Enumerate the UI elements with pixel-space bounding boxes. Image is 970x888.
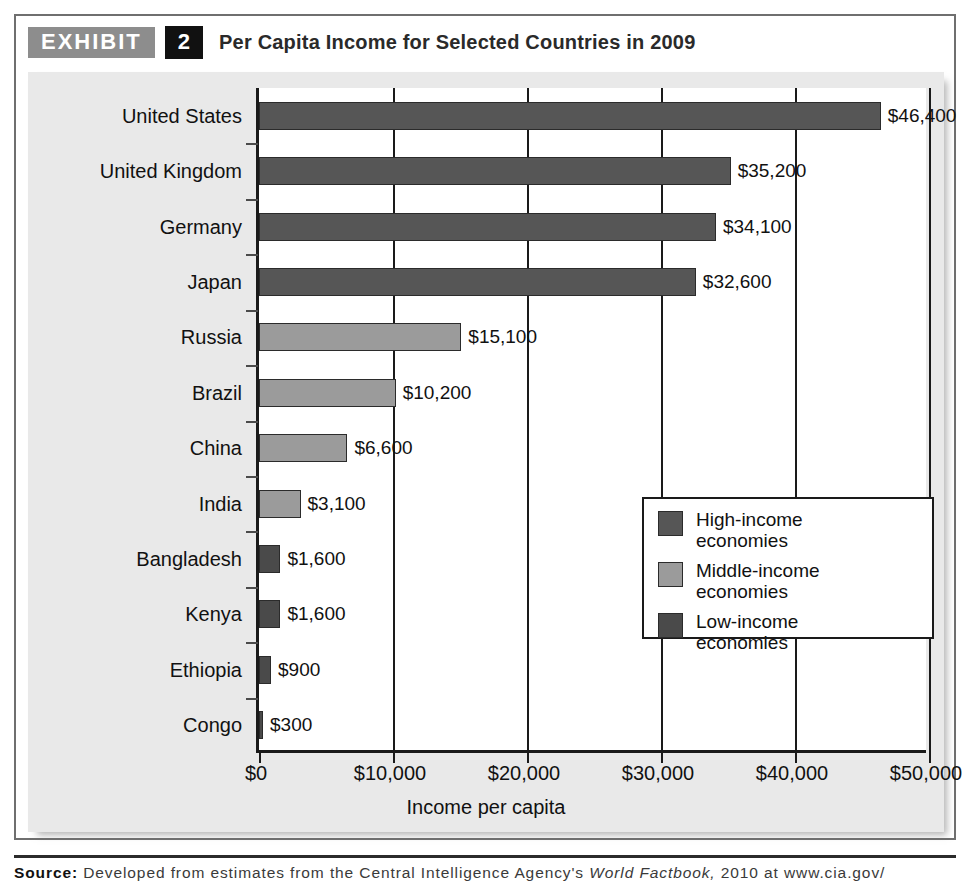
legend-label-middle-income-line1: Middle-income xyxy=(696,560,820,581)
category-label: Brazil xyxy=(192,379,242,407)
gridline xyxy=(929,88,931,750)
category-label: China xyxy=(190,434,242,462)
source-text-before: Developed from estimates from the Centra… xyxy=(78,864,589,881)
category-label: Russia xyxy=(181,323,242,351)
bar xyxy=(259,490,301,518)
bar-row: Congo$300 xyxy=(259,711,312,739)
bar xyxy=(259,600,280,628)
chart-canvas: United States$46,400United Kingdom$35,20… xyxy=(28,72,944,832)
legend-label-low-income-line1: Low-income xyxy=(696,611,798,632)
category-label: Kenya xyxy=(185,600,242,628)
source-divider xyxy=(14,855,956,858)
exhibit-frame: EXHIBIT 2 Per Capita Income for Selected… xyxy=(14,14,956,840)
exhibit-tag: EXHIBIT xyxy=(28,27,155,58)
plot-area: United States$46,400United Kingdom$35,20… xyxy=(256,88,926,753)
exhibit-title: Per Capita Income for Selected Countries… xyxy=(219,31,695,54)
legend-label-high-income-line1: High-income xyxy=(696,509,803,530)
bar-value-label: $10,200 xyxy=(403,382,472,404)
bar xyxy=(259,323,461,351)
y-axis-tick xyxy=(246,587,258,589)
x-axis-tick-label: $30,000 xyxy=(622,762,694,785)
legend-label-low-income-line2: economies xyxy=(696,632,788,653)
bar-value-label: $34,100 xyxy=(723,216,792,238)
bar-row: Russia$15,100 xyxy=(259,323,537,351)
x-axis-tick-label: $0 xyxy=(245,762,267,785)
category-label: Bangladesh xyxy=(136,545,242,573)
legend-item-high: High-income economies xyxy=(658,509,922,551)
source-note: Source: Developed from estimates from th… xyxy=(14,864,960,882)
legend-swatch-middle-income xyxy=(658,562,683,587)
legend-swatch-high-income xyxy=(658,511,683,536)
category-label: Germany xyxy=(160,213,242,241)
legend-label-high-income-line2: economies xyxy=(696,530,788,551)
bar-row: China$6,600 xyxy=(259,434,413,462)
legend-label-high-income: High-income economies xyxy=(696,509,803,551)
bar-value-label: $6,600 xyxy=(354,437,412,459)
bar xyxy=(259,545,280,573)
category-label: Ethiopia xyxy=(170,656,242,684)
legend-item-low: Low-income economies xyxy=(658,611,922,653)
bar-row: Germany$34,100 xyxy=(259,213,792,241)
bar xyxy=(259,379,396,407)
bar-row: United Kingdom$35,200 xyxy=(259,157,806,185)
bar-value-label: $35,200 xyxy=(738,160,807,182)
category-label: United Kingdom xyxy=(100,157,242,185)
source-text-after: 2010 at www.cia.gov/ xyxy=(716,864,886,881)
bar xyxy=(259,157,731,185)
category-label: Congo xyxy=(183,711,242,739)
legend-swatch-low-income xyxy=(658,613,683,638)
y-axis-tick xyxy=(246,143,258,145)
bar-value-label: $15,100 xyxy=(468,326,537,348)
bar-value-label: $300 xyxy=(270,714,312,736)
y-axis-tick xyxy=(246,531,258,533)
bar xyxy=(259,434,347,462)
source-publication: World Factbook, xyxy=(589,864,715,881)
bar xyxy=(259,213,716,241)
bar-row: Japan$32,600 xyxy=(259,268,772,296)
bar-row: United States$46,400 xyxy=(259,102,956,130)
exhibit-page: EXHIBIT 2 Per Capita Income for Selected… xyxy=(0,0,970,888)
bar-value-label: $32,600 xyxy=(703,271,772,293)
source-label: Source: xyxy=(14,864,78,881)
bar-value-label: $900 xyxy=(278,659,320,681)
bar-value-label: $3,100 xyxy=(308,493,366,515)
bar-row: Kenya$1,600 xyxy=(259,600,346,628)
bar xyxy=(259,102,881,130)
y-axis-tick xyxy=(246,310,258,312)
exhibit-header: EXHIBIT 2 Per Capita Income for Selected… xyxy=(16,16,954,68)
category-label: Japan xyxy=(188,268,243,296)
y-axis-tick xyxy=(246,421,258,423)
x-axis-title: Income per capita xyxy=(28,796,944,819)
y-axis-tick xyxy=(246,254,258,256)
legend-label-middle-income-line2: economies xyxy=(696,581,788,602)
y-axis-tick xyxy=(246,642,258,644)
bar-value-label: $46,400 xyxy=(888,105,957,127)
category-label: United States xyxy=(122,102,242,130)
x-axis-tick-label: $50,000 xyxy=(890,762,962,785)
legend-label-middle-income: Middle-income economies xyxy=(696,560,820,602)
x-axis-tick-label: $40,000 xyxy=(756,762,828,785)
bar-value-label: $1,600 xyxy=(287,548,345,570)
chart-legend: High-income economies Middle-income econ… xyxy=(642,497,934,639)
bar-row: Ethiopia$900 xyxy=(259,656,320,684)
y-axis-tick xyxy=(246,365,258,367)
legend-item-middle: Middle-income economies xyxy=(658,560,922,602)
x-axis-tick-label: $20,000 xyxy=(488,762,560,785)
bar-row: Bangladesh$1,600 xyxy=(259,545,346,573)
gridline xyxy=(393,88,395,750)
x-axis-tick-label: $10,000 xyxy=(354,762,426,785)
gridline xyxy=(527,88,529,750)
legend-label-low-income: Low-income economies xyxy=(696,611,798,653)
bar xyxy=(259,711,263,739)
y-axis-tick xyxy=(246,698,258,700)
y-axis-tick xyxy=(246,199,258,201)
bar xyxy=(259,268,696,296)
bar-value-label: $1,600 xyxy=(287,603,345,625)
bar-row: India$3,100 xyxy=(259,490,366,518)
category-label: India xyxy=(199,490,242,518)
exhibit-number-badge: 2 xyxy=(165,26,203,59)
y-axis-tick xyxy=(246,476,258,478)
bar-row: Brazil$10,200 xyxy=(259,379,471,407)
bar xyxy=(259,656,271,684)
